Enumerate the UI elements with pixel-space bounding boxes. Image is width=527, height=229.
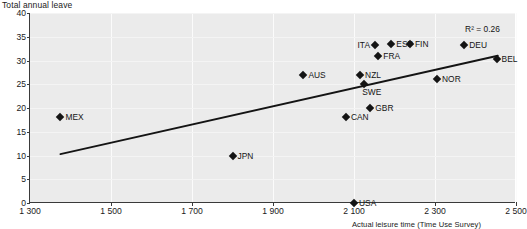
y-axis-tick-label: 35	[16, 32, 26, 42]
y-axis-tick-label: 30	[16, 56, 26, 66]
r-squared-annotation: R² = 0.26	[465, 24, 500, 34]
y-axis-tick-label: 5	[21, 174, 26, 184]
x-axis-title: Actual leisure time (Time Use Survey)	[352, 220, 481, 229]
gridline-vertical	[516, 13, 517, 202]
trendline	[30, 13, 515, 202]
x-axis-tick-mark	[435, 202, 436, 206]
y-axis-tick-mark	[27, 203, 31, 204]
y-axis-tick-label: 25	[16, 79, 26, 89]
data-point-label: CAN	[351, 112, 369, 122]
x-axis-tick-label: 1 300	[19, 206, 41, 216]
data-point-label: AUS	[308, 70, 325, 80]
y-axis-tick-label: 15	[16, 127, 26, 137]
x-axis-tick-label: 1 700	[181, 206, 203, 216]
data-point-label: SWE	[362, 87, 381, 97]
y-axis-tick-label: 20	[16, 103, 26, 113]
data-point-label: ITA	[357, 40, 370, 50]
x-axis-tick-mark	[192, 202, 193, 206]
x-axis-tick-mark	[111, 202, 112, 206]
data-point-label: USA	[359, 198, 376, 208]
data-point-label: BEL	[502, 54, 518, 64]
x-axis-tick-label: 2 500	[505, 206, 527, 216]
data-point-label: FRA	[383, 51, 400, 61]
data-point-label: JPN	[238, 151, 254, 161]
data-point-label: GBR	[375, 103, 393, 113]
data-point-label: FIN	[415, 39, 429, 49]
x-axis-tick-label: 1 900	[262, 206, 284, 216]
x-axis-tick-label: 1 500	[100, 206, 122, 216]
data-point-label: NZL	[365, 70, 381, 80]
data-point-label: MEX	[65, 112, 83, 122]
plot-area: 0510152025303540 1 3001 5001 7001 9002 1…	[29, 13, 515, 203]
y-axis-tick-label: 40	[16, 8, 26, 18]
y-axis-title: Total annual leave	[2, 0, 72, 10]
x-axis-tick-label: 2 300	[424, 206, 446, 216]
x-axis-tick-mark	[273, 202, 274, 206]
x-axis-tick-mark	[516, 202, 517, 206]
data-point-label: DEU	[469, 40, 487, 50]
data-point-label: NOR	[442, 74, 461, 84]
y-axis-tick-label: 10	[16, 151, 26, 161]
